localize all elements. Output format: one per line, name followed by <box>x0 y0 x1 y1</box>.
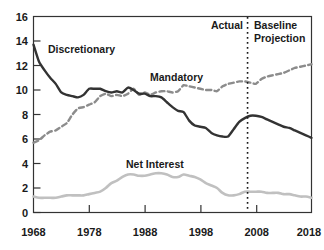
y-tick-label-6: 6 <box>22 133 28 145</box>
y-tick-label-14: 14 <box>16 35 29 47</box>
x-tick-label-1968: 1968 <box>21 226 45 238</box>
y-tick-label-10: 10 <box>16 84 28 96</box>
annotation-actual: Actual <box>211 19 243 31</box>
annotation-baseline: Baseline <box>254 19 297 31</box>
y-tick-label-4: 4 <box>22 158 29 170</box>
y-tick-label-2: 2 <box>22 182 28 194</box>
expenditure-line-chart: 0 2 4 6 8 10 12 14 16 1968 1978 1988 199… <box>0 0 324 250</box>
y-tick-label-12: 12 <box>16 60 28 72</box>
y-tick-label-16: 16 <box>16 11 28 23</box>
series-label-net-interest: Net Interest <box>126 158 184 170</box>
y-tick-label-0: 0 <box>22 207 28 219</box>
x-tick-label-2008: 2008 <box>244 226 268 238</box>
x-tick-label-1978: 1978 <box>77 226 101 238</box>
annotation-projection: Projection <box>254 32 305 44</box>
series-label-discretionary: Discretionary <box>48 43 115 55</box>
x-tick-label-1988: 1988 <box>133 226 157 238</box>
y-tick-label-8: 8 <box>22 109 28 121</box>
x-tick-label-2018: 2018 <box>297 226 321 238</box>
x-tick-label-1998: 1998 <box>189 226 213 238</box>
series-label-mandatory: Mandatory <box>150 71 203 83</box>
chart-container: 0 2 4 6 8 10 12 14 16 1968 1978 1988 199… <box>0 0 324 250</box>
